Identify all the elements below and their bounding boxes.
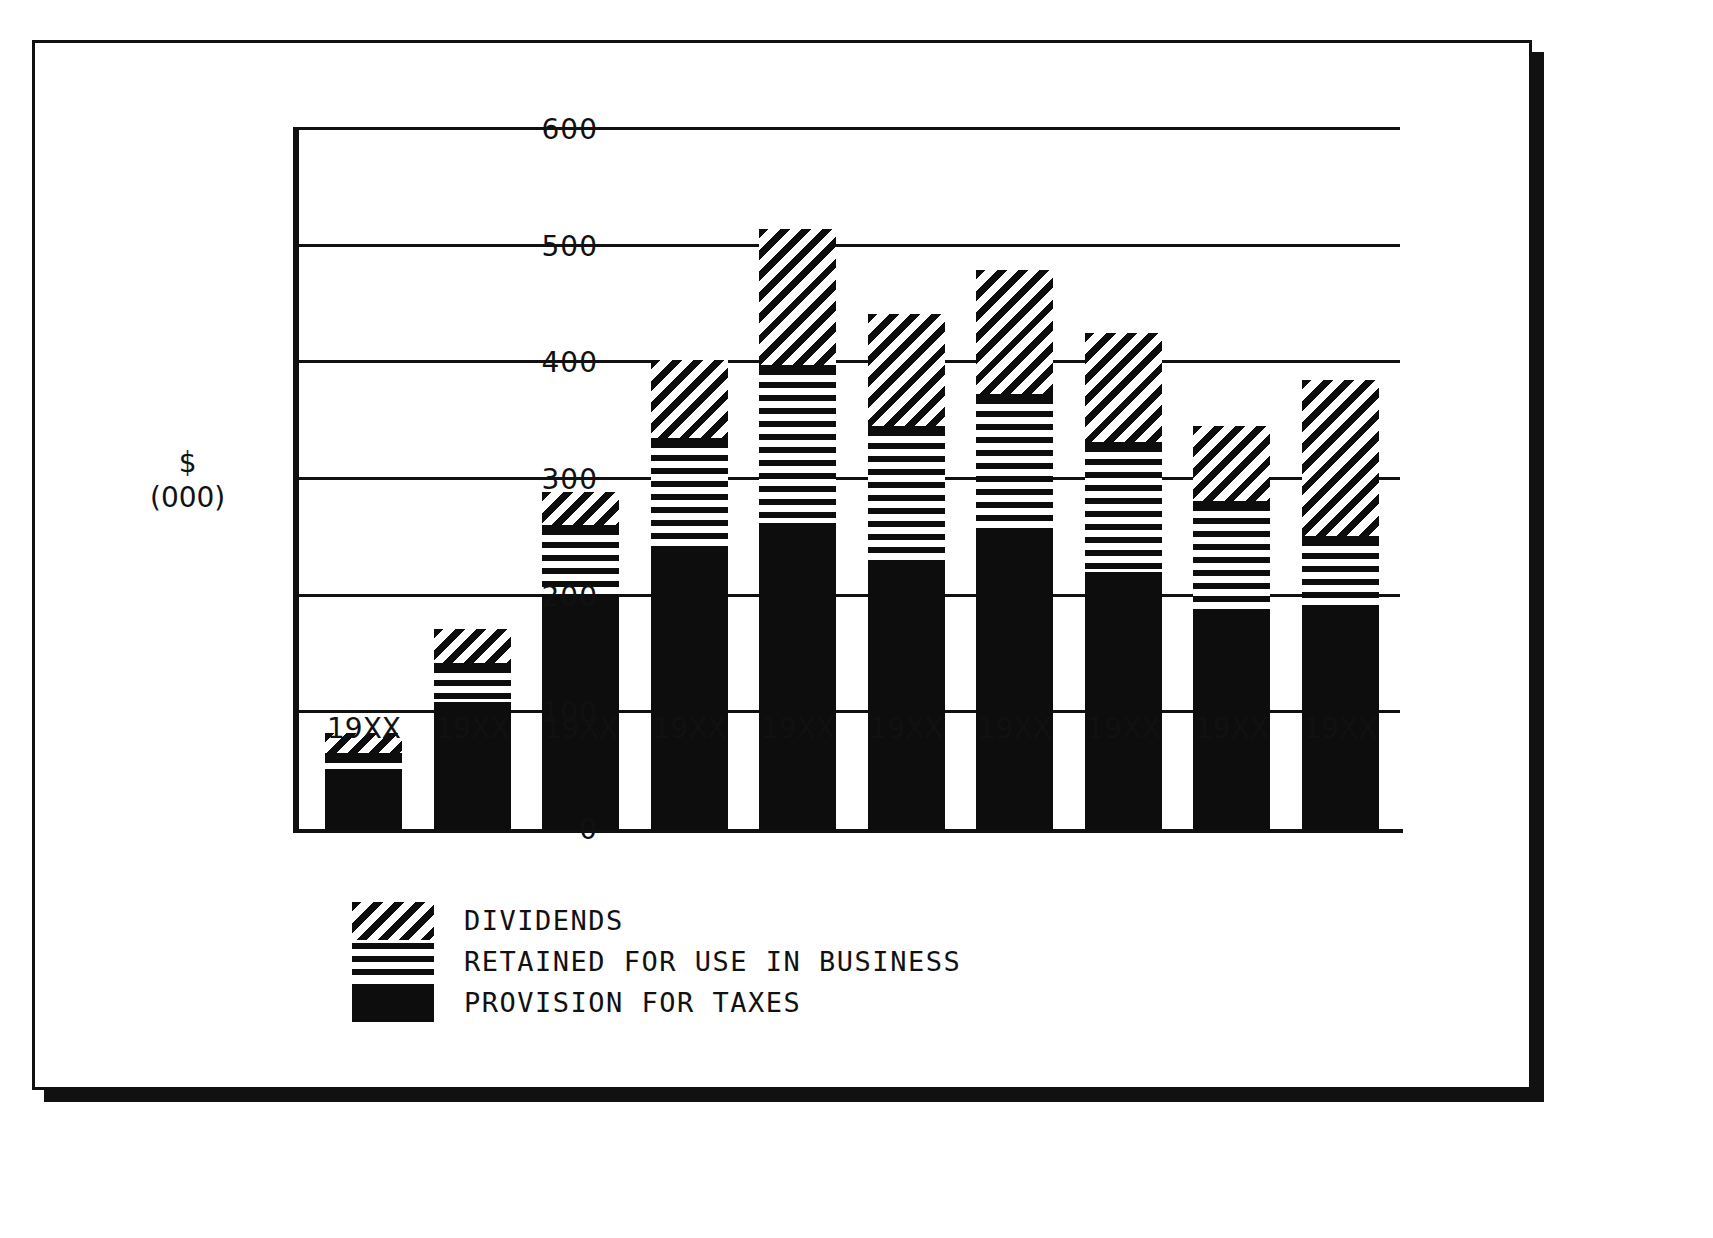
page-border: [32, 40, 1532, 1090]
